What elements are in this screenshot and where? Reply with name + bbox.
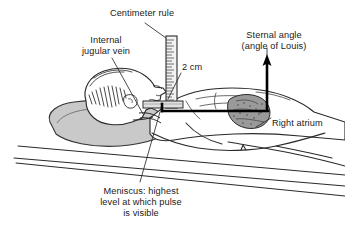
label-centimeter-rule-text: Centimeter rule xyxy=(110,8,174,18)
label-two-cm: 2 cm xyxy=(182,62,216,73)
label-meniscus: Meniscus: highest level at which pulse i… xyxy=(66,186,216,218)
label-sternal-angle: Sternal angle (angle of Louis) xyxy=(218,30,330,52)
label-sternal-angle-line2: (angle of Louis) xyxy=(218,41,330,52)
label-internal-jugular-vein-line1: Internal xyxy=(58,35,154,46)
label-meniscus-line1: Meniscus: highest xyxy=(66,186,216,197)
label-right-atrium-text: Right atrium xyxy=(272,118,323,128)
label-sternal-angle-line1: Sternal angle xyxy=(218,30,330,41)
label-right-atrium: Right atrium xyxy=(272,118,344,129)
label-internal-jugular-vein-line2: jugular vein xyxy=(58,46,154,57)
label-meniscus-line2: level at which pulse xyxy=(66,197,216,208)
label-centimeter-rule: Centimeter rule xyxy=(96,8,188,19)
label-two-cm-text: 2 cm xyxy=(182,62,202,72)
label-meniscus-line3: is visible xyxy=(66,208,216,219)
jugular-venous-pressure-figure: Centimeter rule Internal jugular vein St… xyxy=(0,0,345,231)
label-internal-jugular-vein: Internal jugular vein xyxy=(58,35,154,57)
